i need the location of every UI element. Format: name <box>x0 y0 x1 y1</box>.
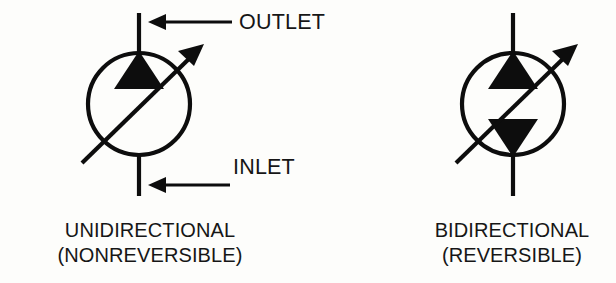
unidirectional-caption-line2: (NONREVERSIBLE) <box>58 244 243 266</box>
displacement-arrow-head-bidirectional <box>552 44 578 66</box>
outlet-flow-arrow-head <box>148 14 166 30</box>
bidirectional-pump-symbol: BIDIRECTIONAL (REVERSIBLE) <box>435 13 590 266</box>
displacement-arrow-head <box>178 44 204 66</box>
inlet-label: INLET <box>233 155 295 179</box>
bidirectional-caption-line1: BIDIRECTIONAL <box>435 219 590 241</box>
diagram-canvas: OUTLET INLET UNIDIRECTIONAL (NONREVERSIB… <box>0 0 616 283</box>
inlet-flow-arrow-head <box>148 177 166 193</box>
hydraulic-pump-symbol-diagram: OUTLET INLET UNIDIRECTIONAL (NONREVERSIB… <box>0 0 616 283</box>
unidirectional-caption-line1: UNIDIRECTIONAL <box>65 219 235 241</box>
unidirectional-pump-symbol: OUTLET INLET UNIDIRECTIONAL (NONREVERSIB… <box>58 10 325 266</box>
outlet-label: OUTLET <box>239 10 325 34</box>
bidirectional-caption-line2: (REVERSIBLE) <box>442 244 582 266</box>
